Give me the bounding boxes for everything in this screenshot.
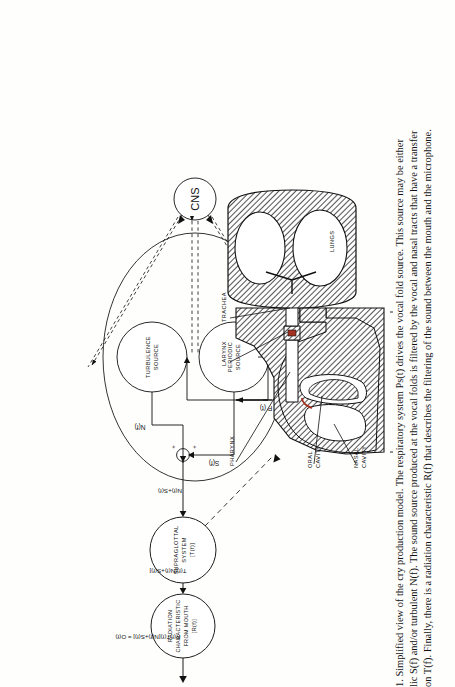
anatomy-label-nasal-cavity-1: NASAL — [353, 447, 359, 468]
node-radiation-label-2: CHARACTERISTIC — [175, 600, 181, 653]
node-supraglottal-system-label-3: [T(f)] — [189, 543, 195, 557]
caption-line-2: lic S(f) and/or turbulent N(f). The soun… — [407, 0, 421, 687]
anatomy-left-lung-shape — [293, 210, 347, 286]
node-turbulence-source[interactable] — [117, 322, 187, 392]
caption-line-1: 1. Simplified view of the cry production… — [393, 0, 407, 687]
anatomy-label-pharynx: PHARYNX — [229, 436, 235, 466]
node-turbulence-source-label-1: TURBULENCE — [145, 336, 151, 378]
node-supraglottal-system-label-2: SYSTEM — [181, 537, 187, 562]
anatomy-pharynx-shape — [286, 340, 298, 402]
cry-production-model-diagram: CNS — [0, 0, 393, 687]
anatomy-label-trachea: TRACHEA — [221, 292, 227, 322]
anatomy-right-lung-shape — [235, 212, 285, 284]
signal-label-source: S(f) — [209, 459, 220, 467]
figure-caption-area: 1. Simplified view of the cry production… — [393, 0, 455, 687]
anatomy-label-oral-cavity-1: ORAL — [307, 451, 313, 468]
summing-junction-plus-1: + — [170, 445, 176, 449]
node-turbulence-source-label-2: SOURCE — [153, 344, 159, 370]
node-periodic-source-label-1: PERIODIC — [227, 342, 233, 372]
node-cns-label: CNS — [189, 187, 201, 210]
signal-label-noise: N(f) — [135, 423, 146, 431]
figure-image-area: CNS — [0, 0, 393, 687]
signal-label-tract-out: T(f)[N(f)+S(f)] — [149, 568, 186, 575]
signal-label-sum-out: N(f)+S(f) — [158, 488, 182, 495]
summing-junction-plus-2: + — [191, 445, 197, 449]
node-radiation-label-4: [R(f)] — [191, 619, 197, 633]
node-radiation-label-3: FROM MOUTH — [183, 605, 189, 646]
figure-page: CNS — [0, 0, 455, 687]
signal-label-radiated-out: R(f)T(f)[N(f)+S(f)] = O(f) — [116, 634, 181, 641]
anatomy-label-nasal-cavity-2: CAVITY — [361, 446, 367, 469]
figure-caption: 1. Simplified view of the cry production… — [393, 0, 455, 687]
anatomy-label-lungs: LUNGS — [329, 230, 335, 252]
node-supraglottal-system-label-1: SUPRAGLOTTAL — [173, 525, 179, 574]
anatomy-label-oral-cavity-2: CAVITY — [315, 446, 321, 469]
caption-line-3: on T(f). Finally, there is a radiation c… — [421, 0, 435, 687]
anatomy-label-larynx: LARYNX — [221, 341, 227, 366]
